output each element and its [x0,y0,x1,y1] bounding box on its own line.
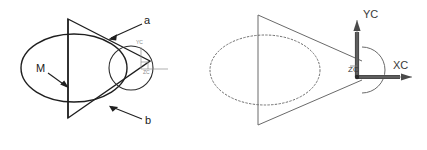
right-figure-cone-lower-edge [258,80,362,125]
right-figure-tip-arc [362,47,385,93]
left-figure-label-b: b [145,114,151,126]
left-figure-leader-b-line [112,107,142,119]
left-figure-tip-circle [109,46,153,90]
right-figure-axis-y-label: YC [363,8,378,20]
right-figure-axis-x-arrowhead [401,73,412,80]
right-figure-group: YC XC ZC [210,8,412,125]
right-figure-axis-z-label: ZC [348,65,359,74]
technical-drawing-canvas: YC ZC a b M YC XC [0,0,427,150]
left-figure-axis-z-label: ZC [143,69,150,75]
right-figure-axis-x-label: XC [393,59,408,71]
right-figure-cone-upper-edge [258,15,362,61]
left-figure-leader-a-arrowhead [108,34,117,40]
right-figure-origin-dot [355,75,359,79]
left-figure-label-a: a [144,14,151,26]
left-figure-axis-y-label: YC [136,39,143,45]
right-figure-body-ellipse [210,35,320,105]
right-figure-axis-y-arrowhead [353,20,360,31]
left-figure-label-m: M [36,62,45,74]
left-figure-group: YC ZC a b M [21,14,168,126]
